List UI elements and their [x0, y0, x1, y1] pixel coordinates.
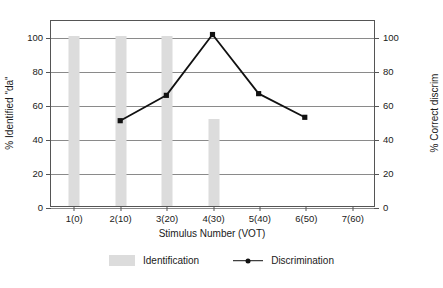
data-point-marker: [256, 91, 261, 96]
legend-item-discrimination: Discrimination: [233, 255, 334, 266]
y-axis-right-tick: [374, 208, 379, 209]
y-axis-right-tick-label: 0: [383, 203, 388, 213]
x-axis-tick-label: 3(20): [156, 214, 178, 224]
y-axis-right-tick-label: 40: [383, 135, 394, 145]
legend-label-discrimination: Discrimination: [271, 255, 334, 266]
x-axis-title: Stimulus Number (VOT): [159, 228, 266, 239]
x-axis-tick-label: 5(40): [249, 214, 271, 224]
data-point-marker: [210, 32, 215, 37]
y-axis-left-title: % Identified "da": [4, 76, 15, 149]
x-axis-tick: [120, 206, 121, 211]
y-axis-left-tick: [46, 38, 51, 39]
x-axis-tick-label: 6(50): [295, 214, 317, 224]
y-axis-left-tick: [46, 174, 51, 175]
x-axis-tick: [74, 206, 75, 211]
bar-swatch-icon: [109, 255, 135, 266]
y-axis-left-tick-label: 20: [32, 169, 43, 179]
line-marker-swatch-icon: [233, 255, 263, 266]
y-axis-right-tick: [374, 38, 379, 39]
y-axis-right-tick: [374, 72, 379, 73]
x-axis-tick-label: 4(30): [202, 214, 224, 224]
x-axis-tick: [306, 206, 307, 211]
y-axis-left-tick: [46, 208, 51, 209]
y-axis-left-tick: [46, 140, 51, 141]
y-axis-right-tick-label: 60: [383, 101, 394, 111]
y-axis-left-tick-label: 0: [38, 203, 43, 213]
y-axis-right-tick-label: 100: [383, 33, 399, 43]
legend-label-identification: Identification: [143, 255, 199, 266]
discrimination-line: [51, 21, 374, 207]
y-axis-left-tick-label: 100: [27, 33, 43, 43]
y-axis-right-tick: [374, 140, 379, 141]
y-axis-right-tick: [374, 106, 379, 107]
x-axis-tick-label: 1(0): [66, 214, 83, 224]
legend-item-identification: Identification: [109, 255, 199, 266]
y-axis-left-tick: [46, 106, 51, 107]
data-point-marker: [302, 115, 307, 120]
plot-area: 020406080100 020406080100 1(0)2(10)3(20)…: [50, 20, 375, 207]
discrimination-polyline: [120, 35, 305, 121]
y-axis-left-tick: [46, 72, 51, 73]
y-axis-right-tick: [374, 174, 379, 175]
y-axis-right-title: % Correct discrim: [429, 74, 440, 153]
y-axis-left-tick-label: 60: [32, 101, 43, 111]
y-axis-left-tick-label: 80: [32, 67, 43, 77]
legend: Identification Discrimination: [0, 255, 443, 266]
data-point-marker: [164, 93, 169, 98]
identification-discrimination-chart: % Identified "da" % Correct discrim Stim…: [0, 0, 443, 288]
x-axis-tick: [167, 206, 168, 211]
x-axis-tick: [213, 206, 214, 211]
y-axis-left-tick-label: 40: [32, 135, 43, 145]
x-axis-tick: [259, 206, 260, 211]
data-point-marker: [118, 118, 123, 123]
y-axis-right-tick-label: 20: [383, 169, 394, 179]
x-axis-tick-label: 7(60): [342, 214, 364, 224]
plot-inner: 020406080100 020406080100 1(0)2(10)3(20)…: [51, 21, 374, 206]
y-axis-right-tick-label: 80: [383, 67, 394, 77]
x-axis-tick: [352, 206, 353, 211]
x-axis-tick-label: 2(10): [110, 214, 132, 224]
